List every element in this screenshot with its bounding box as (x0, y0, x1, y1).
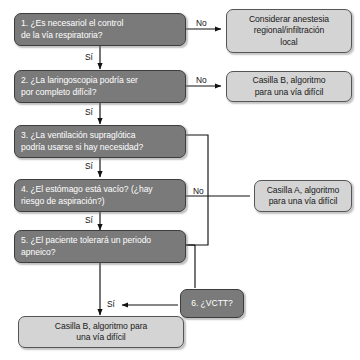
node-q3[interactable]: 3. ¿La ventilación supraglótica podría u… (14, 125, 186, 158)
edge-label-q4-si: Sí (85, 215, 93, 225)
node-outcome-regional-anesthesia[interactable]: Considerar anestesia regional/infiltraci… (226, 9, 352, 53)
node-q1[interactable]: 1. ¿Es necesariol el control de la vía r… (14, 13, 186, 46)
edge-label-q1-no: No (196, 18, 207, 28)
node-outcome-casilla-a[interactable]: Casilla A, algoritmo para una vía difíci… (254, 180, 352, 212)
edge-label-q4-no: No (193, 186, 204, 196)
edge-label-q2-si: Sí (85, 107, 93, 117)
node-outcome-casilla-b-top[interactable]: Casilla B, algoritmo para una vía difíci… (226, 71, 352, 102)
node-q4[interactable]: 4. ¿El estómago está vacío? (¿hay riesgo… (14, 179, 186, 212)
node-q2[interactable]: 2. ¿La laringoscopia podría ser por comp… (14, 70, 186, 103)
edge-q5-no-bus (186, 196, 208, 245)
edge-label-q1-si: Sí (85, 52, 93, 62)
edge-label-q3-si: Sí (85, 161, 93, 171)
node-outcome-casilla-b-bottom[interactable]: Casilla B, algoritmo para una vía difíci… (18, 316, 184, 348)
edge-label-q5-si: Sí (107, 299, 115, 309)
node-q5[interactable]: 5. ¿El paciente tolerará un periodo apne… (14, 230, 186, 263)
node-q6-vctt[interactable]: 6. ¿VCTT? (180, 289, 244, 318)
edge-label-q2-no: No (196, 75, 207, 85)
